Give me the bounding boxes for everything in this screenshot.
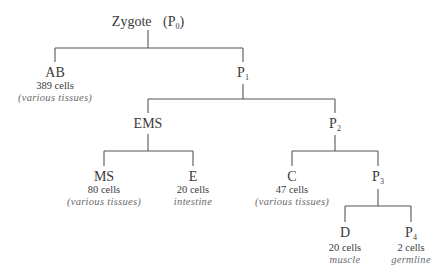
node-zygote-name: Zygote (112, 14, 152, 29)
node-p4-count: 2 cells (397, 242, 424, 253)
node-p4: P4 2 cells germline (391, 225, 431, 265)
node-p2: P2 (329, 116, 341, 133)
node-p1: P1 (237, 65, 249, 82)
node-ms: MS 80 cells (various tissues) (67, 169, 141, 208)
node-ms-fate: (various tissues) (67, 196, 141, 208)
node-p1-name: P (237, 65, 245, 80)
node-e-name: E (189, 169, 198, 184)
svg-text:P4: P4 (405, 225, 417, 242)
node-p4-fate: germline (391, 254, 431, 265)
svg-text:P3: P3 (372, 169, 384, 186)
node-c-fate: (various tissues) (255, 196, 329, 208)
node-p2-name: P (329, 116, 337, 131)
node-p4-name: P (405, 225, 413, 240)
node-d-count: 20 cells (329, 242, 361, 253)
node-ab: AB 389 cells (various tissues) (18, 65, 92, 104)
node-ab-fate: (various tissues) (18, 92, 92, 104)
node-ab-name: AB (45, 65, 64, 80)
node-c-count: 47 cells (276, 184, 308, 195)
node-d-name: D (340, 225, 350, 240)
node-p3: P3 (372, 169, 384, 186)
node-e: E 20 cells intestine (174, 169, 212, 207)
node-ab-count: 389 cells (36, 80, 74, 91)
lineage-diagram: Zygote (P0) AB 389 cells (various tissue… (0, 0, 446, 275)
svg-text:P2: P2 (329, 116, 341, 133)
node-e-fate: intestine (174, 196, 212, 207)
node-c-name: C (287, 169, 296, 184)
node-zygote: Zygote (P0) (112, 14, 185, 31)
node-ms-name: MS (94, 169, 114, 184)
node-ems-name: EMS (134, 116, 163, 131)
node-p3-name: P (372, 169, 380, 184)
node-d-fate: muscle (330, 254, 361, 265)
node-e-count: 20 cells (177, 184, 209, 195)
svg-text:P1: P1 (237, 65, 249, 82)
svg-text:Zygote (P0): Zygote (P0) (112, 14, 185, 31)
node-ems: EMS (134, 116, 163, 131)
node-d: D 20 cells muscle (329, 225, 361, 265)
node-ms-count: 80 cells (88, 184, 120, 195)
node-c: C 47 cells (various tissues) (255, 169, 329, 208)
